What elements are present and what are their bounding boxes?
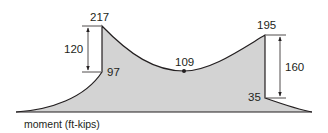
left-jump-value-label: 120	[64, 43, 83, 55]
right-jump-value-label: 160	[285, 61, 304, 73]
right-drop-bottom-label: 35	[248, 91, 261, 103]
left-peak-label: 217	[90, 11, 109, 23]
minimum-point-dot	[182, 69, 186, 73]
left-drop-bottom-label: 97	[107, 66, 120, 78]
moment-diagram: 217 97 120 109 195 35 160 moment (ft-kip…	[0, 0, 328, 133]
right-jump-dimension	[266, 35, 286, 98]
left-jump-dimension	[82, 26, 101, 72]
axis-label: moment (ft-kips)	[24, 118, 100, 130]
right-peak-label: 195	[257, 19, 276, 31]
minimum-value-label: 109	[175, 56, 194, 68]
